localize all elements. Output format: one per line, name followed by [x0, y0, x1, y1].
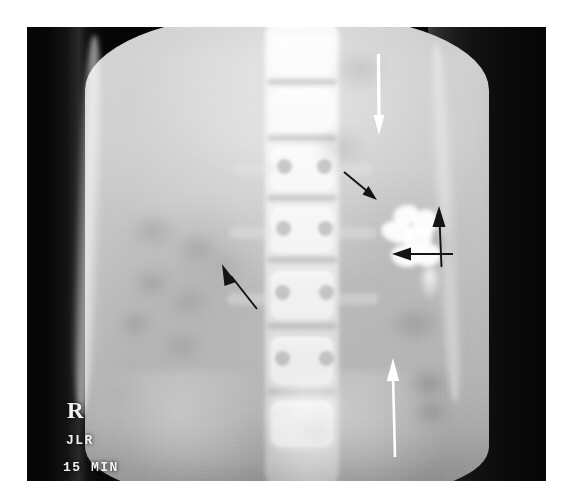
- vertebral-pedicle: [275, 351, 290, 366]
- bowel-gas-shadow: [329, 47, 391, 93]
- vertebral-body: [271, 35, 333, 75]
- bowel-gas-shadow: [159, 329, 205, 363]
- transverse-process: [331, 227, 377, 239]
- vertebral-pedicle: [277, 159, 292, 174]
- transverse-process: [331, 293, 379, 305]
- transverse-process: [229, 227, 275, 239]
- transverse-process: [227, 293, 275, 305]
- contrast-filled-renal-collecting-system: [379, 203, 449, 275]
- intervertebral-disc-space: [267, 195, 337, 201]
- delay-time-marker: 15 MIN: [63, 461, 185, 474]
- vertebral-pedicle: [275, 285, 290, 300]
- vertebral-pedicle: [276, 221, 291, 236]
- film-markers-group: R JLR 15 MIN N: [65, 399, 185, 481]
- sacrum: [259, 383, 351, 481]
- bowel-gas-shadow: [205, 251, 245, 281]
- contrast-filled-proximal-ureter: [419, 267, 441, 301]
- intervertebral-disc-space: [267, 323, 337, 329]
- transverse-process: [233, 163, 275, 175]
- intervertebral-disc-space: [267, 79, 337, 85]
- bowel-gas-shadow: [311, 127, 369, 169]
- bowel-gas-shadow: [127, 211, 179, 251]
- xray-film-area: R JLR 15 MIN N: [27, 27, 546, 481]
- technologist-initials: JLR: [66, 434, 185, 447]
- radiograph-figure: R JLR 15 MIN N: [0, 0, 579, 499]
- bowel-gas-shadow: [167, 285, 211, 319]
- side-marker-right: R: [67, 399, 185, 422]
- bowel-gas-shadow: [131, 267, 171, 299]
- bowel-gas-shadow: [387, 303, 443, 345]
- vertebral-pedicle: [319, 351, 334, 366]
- vertebral-body: [271, 89, 333, 131]
- bowel-gas-shadow: [117, 309, 155, 339]
- intervertebral-disc-space: [267, 257, 337, 263]
